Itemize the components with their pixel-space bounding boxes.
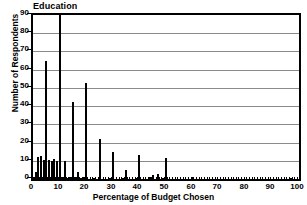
x-tick-mark-minor-6 [47,177,48,179]
x-tick-mark-minor-29 [108,177,109,179]
bar [40,156,42,179]
x-tick-label-50: 50 [152,182,176,191]
x-tick-mark-minor-7 [50,177,51,179]
x-tick-mark-minor-75 [231,177,232,179]
x-tick-mark-major-90 [270,177,271,181]
x-tick-mark-minor-45 [151,177,152,179]
x-tick-mark-minor-4 [42,177,43,179]
x-tick-mark-minor-28 [105,177,106,179]
x-tick-mark-minor-61 [193,177,194,179]
x-tick-mark-minor-58 [185,177,186,179]
x-tick-mark-minor-84 [254,177,255,179]
x-tick-mark-minor-8 [52,177,53,179]
gridline-y-80 [33,33,299,34]
x-tick-mark-minor-83 [252,177,253,179]
bar [37,157,39,179]
chart-figure: Education Number of Respondents 01020304… [0,0,307,205]
x-tick-mark-minor-93 [278,177,279,179]
x-tick-mark-minor-82 [249,177,250,179]
y-tick-label-90: 90 [3,9,29,17]
x-tick-mark-minor-81 [246,177,247,179]
x-tick-mark-major-10 [58,177,59,181]
y-tick-label-50: 50 [3,82,29,90]
x-tick-mark-minor-13 [66,177,67,179]
x-tick-mark-minor-87 [262,177,263,179]
x-tick-mark-minor-18 [79,177,80,179]
x-tick-mark-minor-3 [39,177,40,179]
x-tick-mark-minor-43 [145,177,146,179]
x-tick-label-90: 90 [258,182,282,191]
x-tick-mark-minor-59 [188,177,189,179]
x-tick-mark-minor-2 [36,177,37,179]
x-tick-mark-minor-72 [223,177,224,179]
plot-inner [33,15,299,179]
x-tick-mark-major-80 [244,177,245,181]
x-tick-label-60: 60 [179,182,203,191]
gridline-y-60 [33,70,299,71]
x-tick-mark-minor-17 [76,177,77,179]
x-tick-mark-minor-99 [294,177,295,179]
x-tick-mark-major-40 [137,177,138,181]
x-tick-mark-major-100 [297,177,298,181]
x-tick-mark-minor-65 [204,177,205,179]
x-tick-mark-minor-57 [183,177,184,179]
x-tick-mark-minor-5 [44,177,45,179]
x-tick-label-30: 30 [99,182,123,191]
x-tick-mark-minor-52 [169,177,170,179]
x-tick-label-0: 0 [19,182,43,191]
x-tick-mark-minor-49 [161,177,162,179]
x-tick-mark-minor-15 [71,177,72,179]
y-tick-label-0: 0 [3,173,29,181]
y-tick-label-10: 10 [3,155,29,163]
x-tick-mark-minor-34 [121,177,122,179]
x-tick-mark-minor-25 [98,177,99,179]
y-tick-label-80: 80 [3,27,29,35]
x-tick-label-80: 80 [232,182,256,191]
x-tick-mark-minor-14 [68,177,69,179]
y-axis-ticks: 0102030405060708090 [0,0,29,205]
x-tick-mark-minor-19 [82,177,83,179]
x-tick-mark-minor-73 [225,177,226,179]
x-tick-mark-minor-21 [87,177,88,179]
x-tick-mark-minor-37 [129,177,130,179]
x-tick-mark-minor-62 [196,177,197,179]
x-tick-mark-minor-88 [265,177,266,179]
y-tick-label-30: 30 [3,118,29,126]
x-tick-mark-minor-54 [175,177,176,179]
x-tick-mark-minor-63 [199,177,200,179]
x-tick-mark-minor-33 [119,177,120,179]
x-tick-label-70: 70 [205,182,229,191]
bar [165,158,167,179]
x-tick-mark-minor-85 [257,177,258,179]
x-tick-mark-minor-86 [260,177,261,179]
x-tick-mark-minor-27 [103,177,104,179]
x-tick-mark-minor-41 [140,177,141,179]
x-tick-label-100: 100 [285,182,307,191]
x-tick-mark-minor-47 [156,177,157,179]
x-tick-mark-minor-79 [241,177,242,179]
x-tick-mark-major-0 [31,177,32,181]
x-tick-mark-minor-76 [233,177,234,179]
x-tick-mark-minor-74 [228,177,229,179]
x-tick-mark-minor-39 [135,177,136,179]
x-tick-mark-minor-9 [55,177,56,179]
x-tick-mark-major-50 [164,177,165,181]
x-axis-title: Percentage of Budget Chosen [0,192,307,202]
x-tick-mark-minor-95 [284,177,285,179]
bar [53,159,55,179]
gridline-y-70 [33,51,299,52]
x-tick-mark-minor-35 [124,177,125,179]
x-tick-label-10: 10 [46,182,70,191]
x-tick-mark-minor-38 [132,177,133,179]
bar [59,15,61,179]
bar [45,61,47,179]
x-tick-mark-minor-69 [215,177,216,179]
x-tick-label-20: 20 [72,182,96,191]
y-tick-label-20: 20 [3,137,29,145]
x-tick-mark-minor-66 [207,177,208,179]
bar [85,83,87,179]
bar [72,102,74,179]
x-tick-mark-minor-51 [167,177,168,179]
x-tick-mark-minor-71 [220,177,221,179]
x-tick-mark-minor-94 [281,177,282,179]
